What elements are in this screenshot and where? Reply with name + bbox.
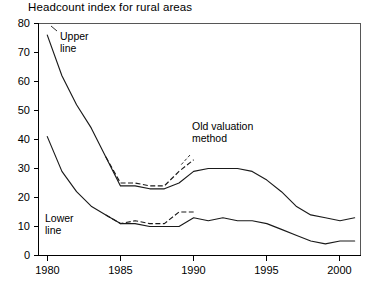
y-tick-label: 40	[18, 133, 30, 145]
chart-container: Headcount index for rural areas 80 70 60	[0, 0, 372, 291]
y-tick-label: 60	[18, 75, 30, 87]
annotation-text: Lower	[45, 212, 74, 224]
x-axis-ticks	[48, 256, 340, 261]
series-lower-line-old-valuation	[106, 212, 194, 224]
annotation-text: line	[60, 42, 77, 54]
annotation-old-valuation-method: Old valuation method	[192, 120, 253, 144]
annotation-text: Upper	[60, 30, 89, 42]
y-tick-label: 0	[24, 249, 30, 261]
x-tick-label: 1985	[108, 264, 132, 276]
upper-line-leader	[51, 26, 57, 31]
y-tick-label: 80	[18, 17, 30, 29]
annotation-lower-line: Lower line	[45, 212, 74, 236]
x-tick-label: 1980	[35, 264, 59, 276]
y-axis-tick-labels: 80 70 60 50 40 30 20 10 0	[18, 17, 30, 261]
y-tick-label: 70	[18, 46, 30, 58]
annotation-text: line	[45, 224, 62, 236]
annotation-text: method	[192, 132, 227, 144]
series-lower-line	[47, 137, 354, 244]
y-tick-label: 10	[18, 220, 30, 232]
y-tick-label: 30	[18, 162, 30, 174]
y-tick-label: 20	[18, 191, 30, 203]
y-tick-label: 50	[18, 104, 30, 116]
y-axis-ticks	[34, 24, 39, 256]
annotation-upper-line: Upper line	[60, 30, 89, 54]
line-chart-plot: 80 70 60 50 40 30 20 10 0 1980 1985 1990…	[0, 0, 372, 291]
annotation-text: Old valuation	[192, 120, 253, 132]
x-tick-label: 2000	[327, 264, 351, 276]
x-axis-tick-labels: 1980 1985 1990 1995 2000	[35, 264, 351, 276]
x-tick-label: 1990	[181, 264, 205, 276]
x-tick-label: 1995	[254, 264, 278, 276]
